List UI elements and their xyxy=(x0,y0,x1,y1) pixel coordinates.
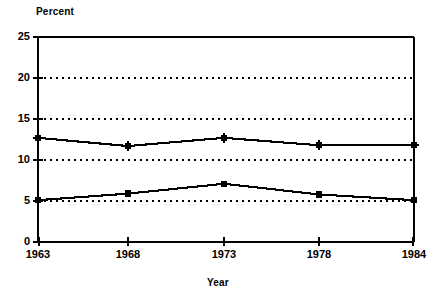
data-point-marker-square xyxy=(316,191,322,197)
x-tick-label: 1973 xyxy=(200,249,248,260)
y-tick-label: 25 xyxy=(4,31,30,42)
data-point-marker-square xyxy=(125,190,131,196)
x-tick-label: 1968 xyxy=(104,249,152,260)
data-point-marker-square xyxy=(221,181,227,187)
x-tick-label: 1978 xyxy=(295,249,343,260)
data-point-marker-star xyxy=(33,133,43,143)
y-tick-label: 0 xyxy=(4,236,30,247)
data-point-marker-square xyxy=(35,197,41,203)
line-chart: Percent Year 0510152025 1963196819731978… xyxy=(0,0,444,302)
data-series-group xyxy=(33,133,419,204)
data-point-marker-star xyxy=(409,140,419,150)
x-tick-label: 1963 xyxy=(14,249,62,260)
y-tick-label: 15 xyxy=(4,113,30,124)
y-tick-label: 20 xyxy=(4,72,30,83)
x-tick-label: 1984 xyxy=(390,249,438,260)
data-point-marker-square xyxy=(411,197,417,203)
data-point-marker-star xyxy=(123,141,133,151)
series-lower-series xyxy=(35,181,417,204)
data-point-marker-star xyxy=(219,133,229,143)
y-tick-label: 10 xyxy=(4,154,30,165)
y-tick-label: 5 xyxy=(4,195,30,206)
series-upper-series xyxy=(33,133,419,152)
data-point-marker-star xyxy=(314,140,324,150)
